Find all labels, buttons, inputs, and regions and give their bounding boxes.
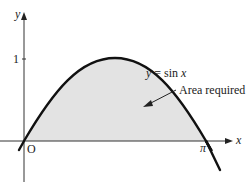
area-required-label: Area required (179, 84, 245, 96)
x-axis-label: x (236, 134, 241, 146)
origin-label: O (27, 143, 36, 155)
x-axis-arrow-icon (225, 138, 233, 144)
function-label-x: x (181, 66, 186, 80)
sine-curve-right-tail (206, 141, 220, 170)
function-label: y = sin x (146, 67, 186, 79)
function-label-eq: = sin (151, 66, 181, 80)
x-tick-label-pi: π (200, 142, 206, 154)
y-tick-label: 1 (13, 53, 19, 65)
y-axis-arrow-icon (21, 12, 27, 20)
y-axis-label: y (15, 8, 20, 20)
